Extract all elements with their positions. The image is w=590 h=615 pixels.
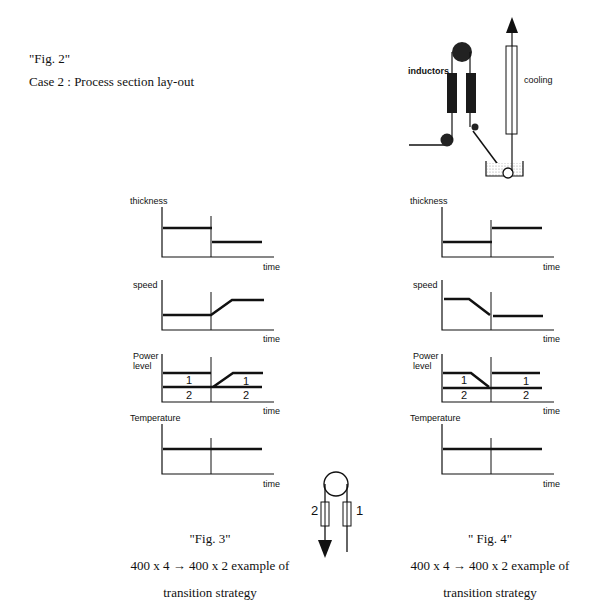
center-strand-diagram (318, 472, 351, 558)
diagram-canvas (0, 0, 590, 615)
fig4-trace-2-left: 2 (461, 389, 467, 401)
fig4-speed-chart (442, 280, 554, 330)
fig4-caption-line2: transition strategy (390, 579, 590, 606)
fig4-power-ylabel-2: level (413, 361, 432, 371)
fig3-temperature-ylabel: Temperature (130, 413, 181, 423)
fig3-power-xlabel: time (263, 406, 280, 416)
fig3-title: "Fig. 3" (120, 525, 300, 552)
fig3-thickness-xlabel: time (263, 262, 280, 272)
inductors-label: inductors (408, 66, 449, 76)
fig3-speed-chart (162, 280, 274, 330)
fig4-title: " Fig. 4" (390, 525, 590, 552)
fig4-power-ylabel-1: Power (413, 351, 439, 361)
fig4-power-xlabel: time (543, 406, 560, 416)
fig4-temperature-chart (442, 424, 554, 474)
fig4-trace-1-right: 1 (523, 375, 529, 387)
fig3-speed-ylabel: speed (133, 280, 158, 290)
center-label-1: 1 (356, 503, 363, 518)
inductor-right-icon (466, 73, 476, 113)
fig3-charts (162, 207, 274, 474)
fig4-thickness-chart (442, 207, 554, 257)
fig3-thickness-chart (162, 207, 274, 257)
fig4-thickness-xlabel: time (543, 262, 560, 272)
fig3-temperature-xlabel: time (263, 479, 280, 489)
fig4-thickness-ylabel: thickness (410, 196, 448, 206)
fig3-trace-2-left: 2 (186, 389, 192, 401)
fig3-power-ylabel-2: level (133, 361, 152, 371)
center-label-2: 2 (311, 503, 318, 518)
process-layout-diagram (409, 17, 523, 178)
fig3-caption-line1: 400 x 4 → 400 x 2 example of (120, 552, 300, 579)
fig3-power-chart (162, 354, 274, 402)
small-roller-icon (472, 124, 479, 131)
fig4-temperature-xlabel: time (543, 479, 560, 489)
fig3-temperature-chart (162, 424, 274, 474)
fig3-thickness-ylabel: thickness (130, 196, 168, 206)
fig3-trace-1-left: 1 (186, 374, 192, 386)
fig3-trace-2-right: 2 (243, 389, 249, 401)
fig3-speed-xlabel: time (263, 334, 280, 344)
arrow-up-icon (506, 17, 518, 33)
arrow-down-icon (318, 540, 332, 558)
fig4-power-chart (442, 354, 554, 402)
fig4-caption: " Fig. 4" 400 x 4 → 400 x 2 example of t… (390, 525, 590, 606)
fig3-trace-1-right: 1 (243, 375, 249, 387)
fig4-charts (442, 207, 554, 474)
center-roller-icon (324, 472, 348, 496)
fig3-caption: "Fig. 3" 400 x 4 → 400 x 2 example of tr… (120, 525, 300, 606)
top-roller-icon (452, 42, 472, 62)
fig4-caption-line1: 400 x 4 → 400 x 2 example of (390, 552, 590, 579)
fig4-temperature-ylabel: Temperature (410, 413, 461, 423)
fig4-speed-ylabel: speed (413, 280, 438, 290)
fig4-speed-xlabel: time (543, 334, 560, 344)
fig3-power-ylabel-1: Power (133, 351, 159, 361)
inductor-left-icon (447, 73, 457, 113)
cooling-label: cooling (524, 75, 553, 85)
fig3-caption-line2: transition strategy (120, 579, 300, 606)
fig4-trace-1-left: 1 (461, 374, 467, 386)
fig4-trace-2-right: 2 (523, 389, 529, 401)
